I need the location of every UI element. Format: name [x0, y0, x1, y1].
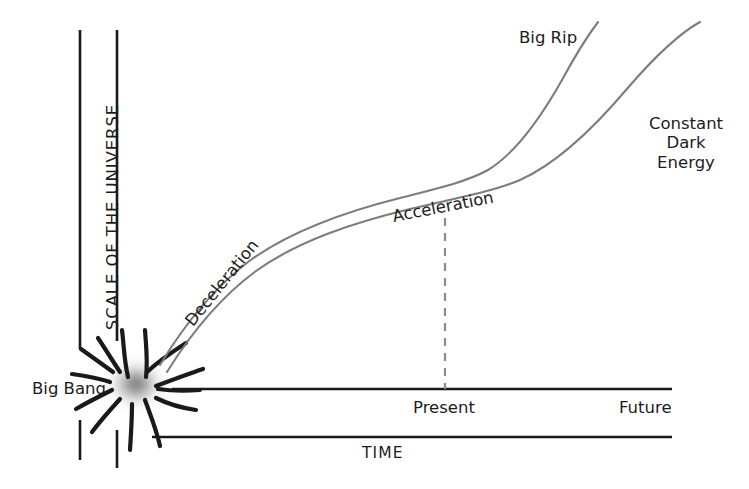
constant-dark-energy-line-1: Constant	[649, 114, 723, 133]
curve-constant-dark-energy	[167, 22, 700, 372]
x-axis-label: TIME	[362, 444, 404, 462]
expansion-curves-group	[160, 22, 700, 372]
cosmology-expansion-diagram: SCALE OF THE UNIVERSE TIME Big Bang Pres…	[0, 0, 749, 489]
constant-dark-energy-line-3: Energy	[649, 153, 723, 172]
y-axis-label: SCALE OF THE UNIVERSE	[103, 104, 122, 330]
x-axis-group	[152, 389, 672, 437]
constant-dark-energy-line-2: Dark	[649, 133, 723, 152]
big-rip-curve-label: Big Rip	[519, 28, 577, 47]
big-bang-label: Big Bang	[32, 379, 106, 398]
present-tick-label: Present	[413, 398, 475, 417]
curve-big-rip	[160, 22, 598, 365]
constant-dark-energy-curve-label: Constant Dark Energy	[649, 114, 723, 172]
future-tick-label: Future	[619, 398, 672, 417]
